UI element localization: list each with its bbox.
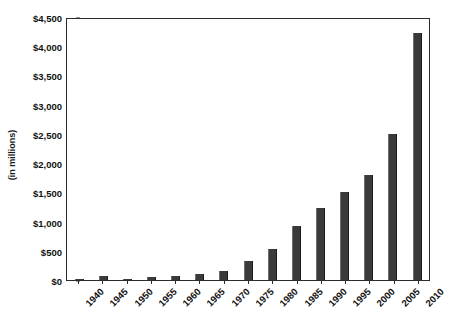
x-axis-tick-label: 1980 xyxy=(277,286,300,309)
x-axis-tick-mark xyxy=(297,281,298,284)
x-axis-tick-label: 1990 xyxy=(326,286,349,309)
y-axis-tick-label: $0 xyxy=(14,276,62,287)
y-axis-tick-label: $1,500 xyxy=(14,188,62,199)
y-axis-tick-label: $1,000 xyxy=(14,217,62,228)
bar-slot xyxy=(91,19,115,280)
y-axis-tick-label: $4,500 xyxy=(14,13,62,24)
bar-1970 xyxy=(219,271,228,280)
x-axis-tick-mark xyxy=(321,281,322,284)
y-axis-tick-label: $2,500 xyxy=(14,129,62,140)
x-axis-tick-label: 1955 xyxy=(156,286,179,309)
bar-1960 xyxy=(171,276,180,280)
x-axis-tick-mark xyxy=(394,281,395,284)
x-axis-tick-mark xyxy=(369,281,370,284)
bar-1980 xyxy=(268,249,277,280)
bar-slot xyxy=(139,19,163,280)
bar-slot xyxy=(284,19,308,280)
plot-area xyxy=(66,18,430,281)
bar-slot xyxy=(164,19,188,280)
y-axis-tick-label: $2,000 xyxy=(14,159,62,170)
x-axis-tick-label: 1975 xyxy=(253,286,276,309)
x-axis-tick-mark xyxy=(248,281,249,284)
x-axis-tick-mark xyxy=(127,281,128,284)
y-axis-tick-label: $3,000 xyxy=(14,100,62,111)
x-axis-tick-mark xyxy=(224,281,225,284)
x-axis-tick-mark xyxy=(199,281,200,284)
x-axis-tick-mark xyxy=(418,281,419,284)
cropped-title-text: — xyxy=(95,0,106,3)
bar-slot xyxy=(260,19,284,280)
bar-slot xyxy=(333,19,357,280)
bar-slot xyxy=(115,19,139,280)
x-axis-tick-mark xyxy=(102,281,103,284)
bar-slot xyxy=(67,19,91,280)
bar-slot xyxy=(381,19,405,280)
bar-1945 xyxy=(99,276,108,280)
x-axis-tick-label: 1995 xyxy=(350,286,373,309)
bar-slot xyxy=(308,19,332,280)
cropped-title-remnant: — xyxy=(0,0,452,6)
x-axis-tick-label: 1960 xyxy=(180,286,203,309)
x-axis-tick-mark xyxy=(175,281,176,284)
x-axis-tick-label: 2010 xyxy=(423,286,446,309)
bar-slot xyxy=(236,19,260,280)
x-axis-tick-mark xyxy=(151,281,152,284)
x-axis-tick-label: 1950 xyxy=(132,286,155,309)
x-axis-tick-mark xyxy=(272,281,273,284)
x-axis-tick-label: 1965 xyxy=(205,286,228,309)
bar-slot xyxy=(405,19,429,280)
bar-chart: — (in millions) $0$500$1,000$1,500$2,000… xyxy=(0,0,452,324)
x-axis-tick-labels: 1940194519501955196019651970197519801985… xyxy=(66,281,430,324)
bar-1965 xyxy=(195,274,204,280)
bar-series xyxy=(67,19,429,280)
bar-slot xyxy=(212,19,236,280)
x-axis-tick-label: 2005 xyxy=(399,286,422,309)
x-axis-tick-label: 2000 xyxy=(375,286,398,309)
bar-1940 xyxy=(75,279,84,280)
bar-2005 xyxy=(388,134,397,280)
x-axis-tick-label: 1945 xyxy=(108,286,131,309)
bar-1995 xyxy=(340,192,349,280)
y-axis-tick-labels: $0$500$1,000$1,500$2,000$2,500$3,000$3,5… xyxy=(14,18,62,281)
y-axis-tick-label: $500 xyxy=(14,246,62,257)
bar-slot xyxy=(357,19,381,280)
bar-slot xyxy=(188,19,212,280)
x-axis-tick-label: 1985 xyxy=(302,286,325,309)
y-axis-tick-label: $4,000 xyxy=(14,42,62,53)
bar-1955 xyxy=(147,277,156,280)
bar-2000 xyxy=(364,175,373,280)
y-axis-tick-label: $3,500 xyxy=(14,71,62,82)
x-axis-tick-mark xyxy=(78,281,79,284)
bar-1990 xyxy=(316,208,325,280)
bar-2010 xyxy=(413,33,422,280)
x-axis-tick-label: 1940 xyxy=(83,286,106,309)
bar-1950 xyxy=(123,279,132,280)
bar-1975 xyxy=(244,261,253,280)
x-axis-tick-mark xyxy=(345,281,346,284)
x-axis-tick-label: 1970 xyxy=(229,286,252,309)
bar-1985 xyxy=(292,226,301,280)
